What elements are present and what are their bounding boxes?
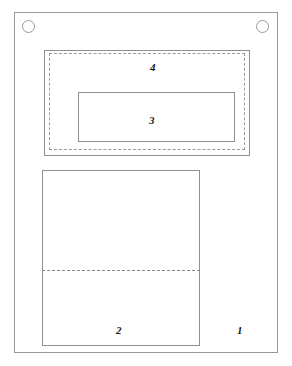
rect-region-3: [78, 92, 235, 142]
mounting-hole-right-icon: [256, 20, 269, 33]
label-region-3: 3: [149, 115, 155, 126]
rect-region-2: [42, 170, 200, 346]
label-region-4: 4: [150, 62, 156, 73]
dashed-split-line-region-2: [42, 270, 200, 271]
label-region-2: 2: [116, 325, 122, 336]
mounting-hole-left-icon: [22, 20, 35, 33]
technical-diagram: 4 3 2 1: [0, 0, 292, 366]
label-region-1: 1: [237, 325, 243, 336]
